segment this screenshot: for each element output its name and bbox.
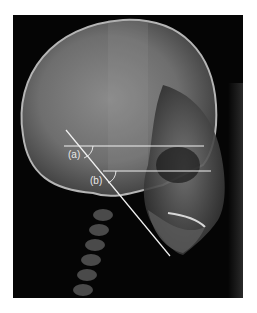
skull-xray-graphic (13, 15, 243, 298)
cervical-spine (73, 209, 113, 296)
xray-image: (a) (b) (13, 15, 243, 298)
label-b: (b) (90, 176, 102, 186)
skull-highlight (108, 20, 148, 170)
orbit (156, 147, 200, 183)
film-edge (228, 83, 243, 298)
label-a: (a) (68, 150, 80, 160)
